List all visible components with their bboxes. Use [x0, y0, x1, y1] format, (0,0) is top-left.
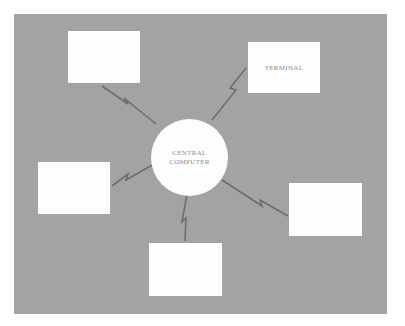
terminal-label: TERMINAL [265, 64, 304, 72]
lightning-link-top-left [102, 86, 156, 124]
hub-label-line2: COMPUTER [169, 158, 210, 167]
terminal-box-top-left [68, 31, 140, 83]
terminal-box-left [38, 162, 110, 214]
hub-label-line1: CENTRAL [169, 149, 210, 158]
lightning-link-top-right [212, 68, 246, 120]
terminal-box-top-right: TERMINAL [248, 42, 320, 93]
terminal-box-bottom [149, 243, 222, 296]
lightning-link-right [222, 180, 288, 216]
central-computer-node: CENTRAL COMPUTER [151, 119, 228, 196]
lightning-link-left [112, 164, 154, 186]
lightning-link-bottom [182, 194, 187, 241]
terminal-box-right [289, 183, 362, 236]
